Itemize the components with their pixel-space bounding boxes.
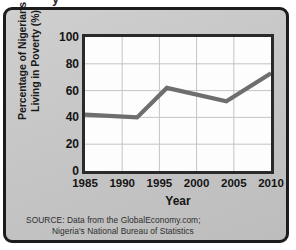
source-note-line-1: SOURCE: Data from the GlobalEconomy.com; xyxy=(26,215,201,225)
y-axis-title-line-1: Percentage of Nigerians xyxy=(16,2,28,120)
y-tick-100: 100 xyxy=(53,31,79,43)
cut-off-heading-text: y xyxy=(52,0,60,6)
plot-area xyxy=(82,34,274,174)
y-axis-tick-labels: 020406080100 xyxy=(53,31,79,171)
source-note: SOURCE: Data from the GlobalEconomy.com;… xyxy=(26,215,278,237)
source-note-line-2: Nigeria's National Bureau of Statistics xyxy=(26,226,278,237)
x-tick-2010: 2010 xyxy=(249,176,293,190)
y-tick-40: 40 xyxy=(53,111,79,123)
figure-card: Percentage of Nigerians Living in Povert… xyxy=(3,7,289,243)
x-axis-title: Year xyxy=(82,194,274,208)
y-axis-title-line-2: Living in Poverty (%) xyxy=(29,0,42,131)
y-tick-20: 20 xyxy=(53,138,79,150)
x-axis-tick-labels: 198519901995200020052010 xyxy=(58,176,296,192)
cut-off-heading-fragment: y xyxy=(0,0,296,6)
horizontal-gridlines xyxy=(85,64,271,144)
y-tick-60: 60 xyxy=(53,85,79,97)
plot-svg xyxy=(85,37,271,171)
poverty-trend-line xyxy=(85,73,271,117)
y-tick-80: 80 xyxy=(53,58,79,70)
y-axis-title: Percentage of Nigerians Living in Povert… xyxy=(16,0,42,131)
vertical-gridlines xyxy=(122,37,234,171)
